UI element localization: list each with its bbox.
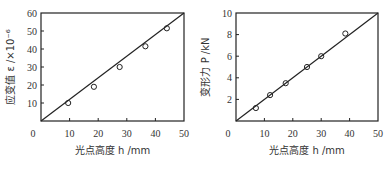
y-axis-label: 应变值 ε /×10⁻⁶ — [4, 29, 16, 105]
y-tick-label: 2 — [227, 94, 232, 105]
y-tick-label: 4 — [227, 72, 232, 83]
y-tick-label: 6 — [227, 51, 232, 62]
data-point — [117, 64, 122, 69]
y-tick-label: 10 — [27, 98, 37, 109]
x-tick-label: 30 — [316, 128, 326, 139]
x-tick-label: 20 — [93, 128, 103, 139]
x-axis-label: 光点高度 h /mm — [269, 144, 345, 156]
fit-line — [41, 13, 184, 121]
y-tick-label: 60 — [27, 8, 37, 19]
y-axis-label: 变形力 P /kN — [199, 37, 211, 96]
chart-strain: 01020304050102030405060光点高度 h /mm应变值 ε /… — [4, 8, 189, 157]
fit-line — [236, 13, 378, 121]
x-axis-label: 光点高度 h /mm — [75, 144, 151, 156]
y-tick-label: 40 — [27, 44, 37, 55]
x-tick-label: 30 — [122, 128, 132, 139]
x-tick-label: 0 — [226, 128, 231, 139]
chart-figure: 01020304050102030405060光点高度 h /mm应变值 ε /… — [0, 0, 385, 171]
x-tick-label: 50 — [373, 128, 383, 139]
y-tick-label: 20 — [27, 80, 37, 91]
x-tick-label: 0 — [31, 128, 36, 139]
y-tick-label: 10 — [222, 8, 232, 19]
chart-force: 01020304050246810光点高度 h /mm变形力 P /kN — [199, 8, 383, 157]
y-tick-label: 30 — [27, 62, 37, 73]
x-tick-label: 10 — [65, 128, 75, 139]
data-point — [343, 31, 348, 36]
y-tick-label: 8 — [227, 29, 232, 40]
y-tick-label: 50 — [27, 26, 37, 37]
x-tick-label: 50 — [179, 128, 189, 139]
x-tick-label: 40 — [345, 128, 355, 139]
data-point — [143, 44, 148, 49]
x-tick-label: 40 — [150, 128, 160, 139]
data-point — [91, 84, 96, 89]
x-tick-label: 10 — [259, 128, 269, 139]
x-tick-label: 20 — [288, 128, 298, 139]
